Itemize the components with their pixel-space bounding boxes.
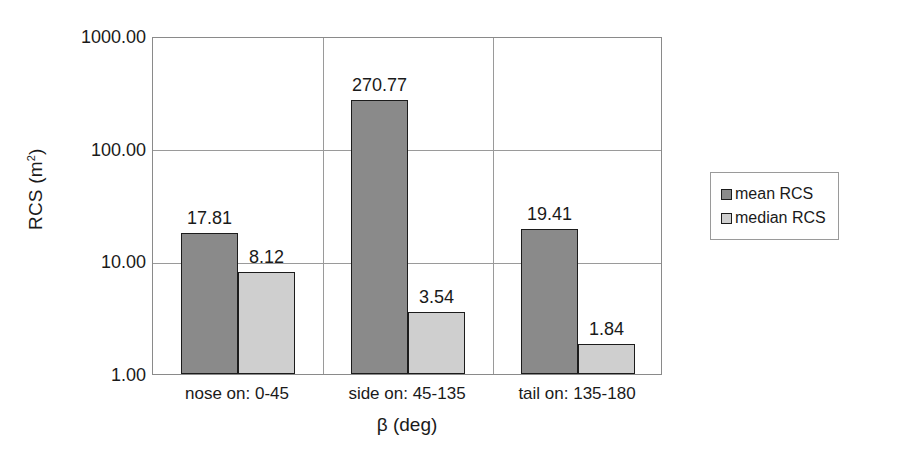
legend-swatch-icon <box>721 213 732 224</box>
y-axis-tick-label: 10.00 <box>46 253 146 271</box>
bar-value-label: 19.41 <box>507 205 592 223</box>
bar-value-label: 3.54 <box>394 288 479 306</box>
bar-value-label: 8.12 <box>224 248 309 266</box>
bar-median-2[interactable] <box>408 312 465 374</box>
bar-mean-3[interactable] <box>521 229 578 374</box>
x-axis-title: β (deg) <box>152 414 662 436</box>
bar-value-label: 270.77 <box>337 76 422 94</box>
x-axis-tick-label-1: nose on: 0-45 <box>152 384 322 404</box>
x-axis-tick-label-2: side on: 45-135 <box>322 384 492 404</box>
rcs-bar-chart: RCS (m2) 1000.00100.0010.001.00 17.818.1… <box>0 0 908 459</box>
legend: mean RCSmedian RCS <box>710 172 839 240</box>
x-axis-tick-label-3: tail on: 135-180 <box>492 384 662 404</box>
legend-item-median[interactable]: median RCS <box>721 206 826 230</box>
y-axis-tick-label: 1000.00 <box>46 28 146 46</box>
y-axis-title: RCS (m2) <box>25 109 47 269</box>
bar-mean-2[interactable] <box>351 100 408 374</box>
y-axis-tick-labels: 1000.00100.0010.001.00 <box>46 0 146 459</box>
bar-median-3[interactable] <box>578 344 635 374</box>
gridline-vertical <box>323 38 324 374</box>
bar-median-1[interactable] <box>238 272 295 374</box>
legend-swatch-icon <box>721 189 732 200</box>
legend-item-mean[interactable]: mean RCS <box>721 182 826 206</box>
y-axis-title-superscript: 2 <box>25 155 37 161</box>
legend-item-label: median RCS <box>735 210 826 226</box>
y-axis-tick-label: 1.00 <box>46 366 146 384</box>
legend-item-label: mean RCS <box>735 186 813 202</box>
bar-value-label: 1.84 <box>564 320 649 338</box>
y-axis-title-end: ) <box>25 148 46 155</box>
bar-value-label: 17.81 <box>167 209 252 227</box>
plot-area: 17.818.12270.773.5419.411.84 <box>152 37 662 375</box>
y-axis-tick-label: 100.00 <box>46 141 146 159</box>
y-axis-title-base: RCS (m <box>25 161 46 230</box>
gridline-vertical <box>493 38 494 374</box>
